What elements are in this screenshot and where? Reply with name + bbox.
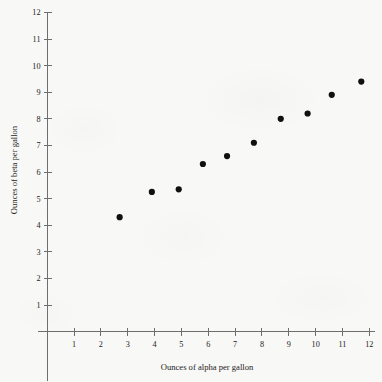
- data-point: [329, 92, 335, 98]
- data-point: [200, 161, 206, 167]
- data-point: [251, 140, 257, 146]
- y-tick-label-7: 7: [36, 141, 40, 150]
- chart-canvas: 123456789101112 123456789101112 Ounces o…: [0, 0, 382, 382]
- x-tick-label-5: 5: [179, 340, 183, 349]
- data-point: [176, 186, 182, 192]
- data-point: [224, 153, 230, 159]
- x-tick-label-9: 9: [287, 340, 291, 349]
- data-point: [149, 189, 155, 195]
- y-tick-label-9: 9: [36, 88, 40, 97]
- y-axis-tick-labels: 123456789101112: [32, 8, 40, 310]
- x-axis-tick-labels: 123456789101112: [72, 340, 373, 349]
- y-tick-label-10: 10: [32, 62, 40, 71]
- x-tick-label-4: 4: [153, 340, 157, 349]
- x-tick-label-8: 8: [260, 340, 264, 349]
- y-tick-label-3: 3: [36, 248, 40, 257]
- x-tick-label-10: 10: [312, 340, 320, 349]
- y-tick-label-11: 11: [33, 35, 41, 44]
- x-tick-label-1: 1: [72, 340, 76, 349]
- axes-group: [38, 12, 375, 381]
- y-tick-label-1: 1: [36, 301, 40, 310]
- data-point: [358, 78, 364, 84]
- x-axis-title: Ounces of alpha per gallon: [161, 362, 254, 372]
- y-tick-label-6: 6: [36, 168, 40, 177]
- y-tick-label-5: 5: [36, 195, 40, 204]
- x-tick-label-3: 3: [126, 340, 130, 349]
- x-tick-label-7: 7: [233, 340, 237, 349]
- y-tick-label-8: 8: [36, 115, 40, 124]
- data-point: [117, 214, 123, 220]
- x-tick-label-12: 12: [365, 340, 373, 349]
- data-point: [278, 116, 284, 122]
- x-tick-label-2: 2: [99, 340, 103, 349]
- y-axis-title: Ounces of beta per gallon: [9, 125, 19, 214]
- x-tick-label-11: 11: [339, 340, 347, 349]
- y-tick-label-12: 12: [32, 8, 40, 17]
- data-point: [304, 110, 310, 116]
- scatter-plot-figure: 123456789101112 123456789101112 Ounces o…: [0, 0, 382, 382]
- data-points-group: [117, 78, 365, 220]
- x-tick-label-6: 6: [206, 340, 210, 349]
- y-tick-label-4: 4: [36, 221, 40, 230]
- y-tick-label-2: 2: [36, 274, 40, 283]
